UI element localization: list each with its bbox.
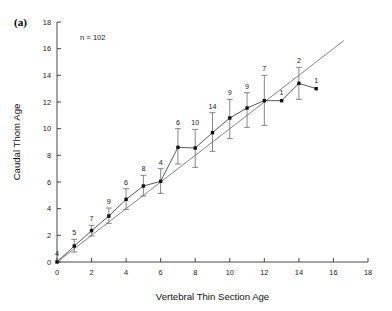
sample-size-label: 9: [107, 197, 111, 206]
sample-size-label: 2: [297, 56, 301, 65]
data-point-marker: [245, 106, 248, 109]
y-tick-label: 0: [47, 258, 51, 267]
data-point-marker: [263, 99, 266, 102]
x-tick-label: 0: [55, 268, 59, 277]
panel-label: (a): [14, 16, 27, 29]
sample-size-label: 1: [314, 76, 318, 85]
sample-size-label: 9: [228, 88, 232, 97]
y-tick-label: 4: [47, 204, 51, 213]
data-point-marker: [142, 184, 145, 187]
x-tick-label: 6: [159, 268, 163, 277]
reference-line-1to1: [57, 41, 344, 262]
sample-size-label: 7: [90, 214, 94, 223]
sample-size-label: 6: [124, 178, 128, 187]
sample-size-label: 5: [72, 228, 76, 237]
sample-size-label: 7: [262, 64, 266, 73]
x-axis-title: Vertebral Thin Section Age: [156, 291, 269, 302]
data-point-marker: [90, 229, 93, 232]
x-tick-label: 18: [364, 268, 372, 277]
y-tick-label: 6: [47, 178, 51, 187]
data-point-marker: [107, 214, 110, 217]
scatter-chart: 024681012141618024681012141618Vertebral …: [0, 0, 392, 311]
y-tick-label: 18: [43, 18, 51, 27]
y-tick-label: 2: [47, 231, 51, 240]
x-tick-label: 2: [89, 268, 93, 277]
sample-size-note: n = 102: [80, 33, 106, 42]
figure-panel: 024681012141618024681012141618Vertebral …: [0, 0, 392, 311]
sample-size-label: 9: [245, 82, 249, 91]
x-tick-label: 12: [260, 268, 268, 277]
series-mean-line: [57, 83, 316, 262]
data-point-marker: [297, 82, 300, 85]
data-point-marker: [55, 260, 58, 263]
sample-size-label: 8: [141, 164, 145, 173]
sample-size-label: 1: [280, 88, 284, 97]
sample-size-label: 14: [209, 102, 217, 111]
data-point-marker: [73, 244, 76, 247]
y-tick-label: 16: [43, 44, 51, 53]
sample-size-label: 10: [191, 118, 199, 127]
data-point-marker: [228, 116, 231, 119]
data-point-marker: [124, 198, 127, 201]
y-tick-label: 12: [43, 98, 51, 107]
x-tick-label: 4: [124, 268, 128, 277]
sample-size-label: 6: [176, 118, 180, 127]
y-tick-label: 8: [47, 151, 51, 160]
sample-size-label: 4: [159, 158, 163, 167]
data-point-marker: [194, 146, 197, 149]
x-tick-label: 8: [193, 268, 197, 277]
x-tick-label: 16: [329, 268, 337, 277]
y-tick-label: 14: [43, 71, 51, 80]
data-point-marker: [314, 87, 317, 90]
data-point-marker: [176, 146, 179, 149]
sample-size-label: 4: [55, 249, 59, 258]
data-point-marker: [159, 180, 162, 183]
data-point-marker: [211, 131, 214, 134]
x-tick-label: 14: [295, 268, 303, 277]
y-tick-label: 10: [43, 124, 51, 133]
y-axis-title: Caudal Thom Age: [11, 104, 22, 181]
x-tick-label: 10: [226, 268, 234, 277]
data-point-marker: [280, 99, 283, 102]
